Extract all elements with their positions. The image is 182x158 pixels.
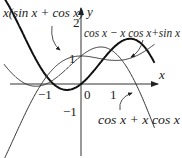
tick-label-y-1: 1 [69, 51, 76, 66]
curve-label-b: cos x − x cos x+sin x [84, 25, 180, 40]
curve-label-c: cos x + x cos x [98, 112, 180, 127]
tick-label-x-1: 1 [110, 87, 117, 102]
tick-label-x-0: 0 [84, 87, 91, 102]
curve-label-a: x(sin x + cos x) [2, 5, 83, 20]
arrow-curve-a [52, 26, 60, 50]
arrow-curve-c [120, 93, 132, 110]
x-axis-label: x [158, 67, 165, 82]
curve-cosx-minus-xcosx-plus-sinx [4, 44, 155, 158]
tick-label-x-neg1: −1 [38, 87, 52, 102]
tick-label-y-neg1: −1 [63, 104, 77, 119]
chart: x y −1 0 1 2 1 −1 x(sin x + cos x) cos x… [0, 0, 182, 158]
y-axis-label: y [85, 4, 93, 19]
